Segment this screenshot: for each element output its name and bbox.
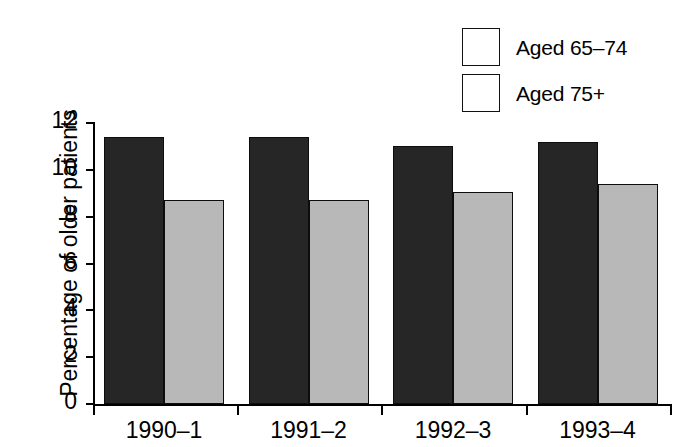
bar <box>249 137 309 404</box>
legend-item: Aged 65–74 <box>462 24 672 70</box>
bar <box>538 142 598 404</box>
x-axis-category-label: 1992–3 <box>393 419 513 442</box>
y-axis-tick: 6 <box>86 263 95 265</box>
x-axis-tick <box>670 404 672 415</box>
y-axis-tick: 12 <box>86 122 95 124</box>
y-axis-tick-label: 8 <box>43 203 77 226</box>
y-axis-tick-label: 2 <box>43 343 77 366</box>
legend-swatch-aged-75-plus <box>462 74 500 112</box>
x-axis-category-label: 1993–4 <box>538 419 658 442</box>
bar <box>104 137 164 404</box>
x-axis-tick <box>526 404 528 415</box>
y-axis-tick: 10 <box>86 169 95 171</box>
legend-label-aged-75-plus: Aged 75+ <box>516 83 605 104</box>
y-axis-tick-label: 12 <box>43 109 77 132</box>
bar <box>164 200 224 404</box>
legend-label-aged-65-74: Aged 65–74 <box>516 37 627 58</box>
legend-swatch-aged-65-74 <box>462 28 500 66</box>
y-axis-tick-label: 10 <box>43 156 77 179</box>
y-axis-tick-label: 0 <box>43 390 77 413</box>
y-axis-tick-label: 6 <box>43 250 77 273</box>
y-axis-tick: 8 <box>86 216 95 218</box>
chart-legend: Aged 65–74 Aged 75+ <box>462 24 672 116</box>
y-axis-tick: 4 <box>86 309 95 311</box>
bar <box>598 184 658 404</box>
bar <box>393 146 453 404</box>
x-axis-tick <box>93 404 95 415</box>
y-axis-tick: 2 <box>86 356 95 358</box>
bar <box>309 200 369 404</box>
x-axis-tick <box>381 404 383 415</box>
x-axis-category-label: 1991–2 <box>249 419 369 442</box>
plot-area: Percentage of older patients 121086420 1… <box>93 123 671 404</box>
y-axis-tick-label: 4 <box>43 296 77 319</box>
x-axis-tick <box>237 404 239 415</box>
x-axis-category-label: 1990–1 <box>104 419 224 442</box>
legend-item: Aged 75+ <box>462 70 672 116</box>
bar <box>453 192 513 404</box>
